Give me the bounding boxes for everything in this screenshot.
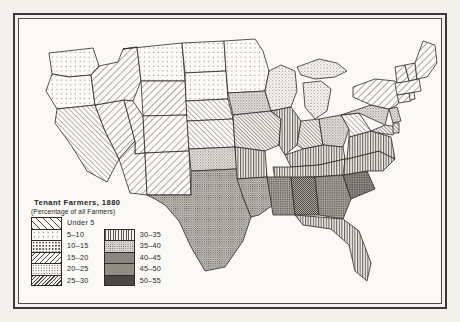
legend-swatch-40-45 xyxy=(104,252,135,264)
legend-row: 50–55 xyxy=(104,275,162,287)
legend-column-left: Under 5 5–10 10–15 15–20 20–25 xyxy=(31,217,95,286)
state-nebraska xyxy=(186,99,233,121)
legend-swatch-under-5 xyxy=(31,217,62,229)
legend-row: 5–10 xyxy=(31,229,95,241)
legend-row: 40–45 xyxy=(104,252,162,264)
legend-label: Under 5 xyxy=(67,218,95,227)
state-wisconsin xyxy=(265,65,297,111)
state-washington xyxy=(49,48,99,77)
legend-label: 20–25 xyxy=(67,264,89,273)
legend-swatch-45-50 xyxy=(104,263,135,275)
state-colorado xyxy=(143,115,189,153)
legend-row: 15–20 xyxy=(31,252,95,264)
legend-title: Tenant Farmers, 1880 xyxy=(34,198,191,207)
state-florida xyxy=(295,215,371,281)
legend-row: 35–40 xyxy=(104,240,162,252)
state-idaho xyxy=(91,47,141,105)
legend-row: 20–25 xyxy=(31,263,95,275)
legend-row: 25–30 xyxy=(31,275,95,287)
legend-row: 10–15 xyxy=(31,240,95,252)
state-indiana xyxy=(297,119,323,149)
state-michigan xyxy=(297,59,347,119)
state-south-dakota xyxy=(185,71,228,101)
legend-label: 30–35 xyxy=(140,230,162,239)
state-alabama xyxy=(291,177,319,215)
map-page: Tenant Farmers, 1880 (Percentage of all … xyxy=(0,0,460,322)
legend-label: 5–10 xyxy=(67,230,84,239)
legend-label: 25–30 xyxy=(67,276,89,285)
legend-swatch-25-30 xyxy=(31,275,62,287)
legend-row: Under 5 xyxy=(31,217,95,229)
state-maine xyxy=(415,41,437,79)
state-minnesota xyxy=(224,39,269,93)
legend-swatch-5-10 xyxy=(31,229,62,241)
legend-label: 45–50 xyxy=(140,264,162,273)
legend-swatch-50-55 xyxy=(104,275,135,287)
legend-subtitle: (Percentage of all Farmers) xyxy=(31,208,191,215)
legend-label: 10–15 xyxy=(67,241,89,250)
state-new-jersey xyxy=(389,107,401,123)
legend-swatch-20-25 xyxy=(31,263,62,275)
state-missouri xyxy=(233,111,281,151)
state-north-dakota xyxy=(182,41,226,73)
legend-label: 35–40 xyxy=(140,241,162,250)
legend-label: 50–55 xyxy=(140,276,162,285)
state-delaware xyxy=(393,123,399,133)
legend-label: 15–20 xyxy=(67,253,89,262)
state-oklahoma xyxy=(189,147,237,171)
legend-columns: Under 5 5–10 10–15 15–20 20–25 xyxy=(31,217,191,286)
state-oregon xyxy=(46,74,95,109)
legend-swatch-30-35 xyxy=(104,229,135,241)
state-mississippi xyxy=(267,177,295,215)
state-kansas xyxy=(187,119,235,149)
state-arkansas xyxy=(235,147,267,179)
legend-swatch-10-15 xyxy=(31,240,62,252)
legend-swatch-35-40 xyxy=(104,240,135,252)
legend-column-right: 30–35 35–40 40–45 45–50 50–55 xyxy=(104,229,162,287)
state-wyoming xyxy=(141,81,187,116)
legend-swatch-15-20 xyxy=(31,252,62,264)
legend-row: 30–35 xyxy=(104,229,162,241)
legend-label: 40–45 xyxy=(140,253,162,262)
state-new-mexico xyxy=(145,151,191,195)
map-legend: Tenant Farmers, 1880 (Percentage of all … xyxy=(31,198,191,286)
legend-row: 45–50 xyxy=(104,263,162,275)
